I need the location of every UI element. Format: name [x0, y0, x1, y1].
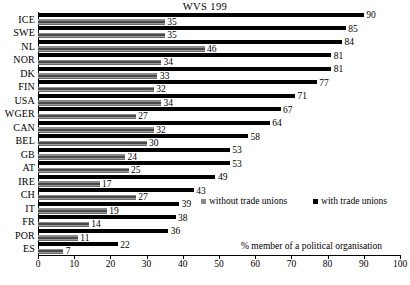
bar-without-trade-unions-bel: [38, 141, 147, 146]
value-label-with-trade-unions-es: 22: [118, 241, 130, 251]
value-label-with-trade-unions-usa: 71: [295, 92, 307, 102]
bar-with-trade-unions-ch: [38, 188, 194, 192]
x-axis-tick-label-20: 20: [106, 259, 116, 269]
bar-with-trade-unions-fr: [38, 215, 176, 219]
bar-without-trade-unions-ice: [38, 19, 165, 24]
chart-row: USA7134: [38, 93, 400, 107]
value-label-with-trade-unions-nl: 84: [342, 38, 354, 48]
legend-item-without-trade-unions: without trade unions: [201, 196, 287, 206]
chart-row: NL8446: [38, 39, 400, 53]
bar-without-trade-unions-can: [38, 127, 154, 132]
legend-swatch-without-trade-unions: [201, 199, 206, 204]
value-label-with-trade-unions-gb: 53: [230, 146, 242, 156]
x-axis-tick-label-40: 40: [178, 259, 188, 269]
category-label-fr: FR: [22, 216, 35, 227]
bar-without-trade-unions-fin: [38, 87, 154, 92]
category-label-can: CAN: [13, 121, 35, 132]
x-axis-tick-label-90: 90: [359, 259, 369, 269]
x-axis-title: % member of a political organisation: [241, 241, 382, 251]
category-label-ire: IRE: [18, 175, 35, 186]
category-label-bel: BEL: [16, 135, 36, 146]
bar-with-trade-unions-dk: [38, 67, 331, 71]
bar-without-trade-unions-wger: [38, 114, 136, 119]
category-label-at: AT: [22, 162, 35, 173]
category-label-it: IT: [25, 202, 35, 213]
bar-without-trade-unions-es: [38, 249, 63, 254]
chart-row: WGER6727: [38, 107, 400, 121]
value-label-with-trade-unions-bel: 58: [248, 133, 260, 143]
value-label-without-trade-unions-es: 7: [63, 247, 70, 257]
value-label-with-trade-unions-fr: 38: [176, 214, 188, 224]
x-axis-tick-label-10: 10: [69, 259, 79, 269]
bar-without-trade-unions-ch: [38, 195, 136, 200]
value-label-with-trade-unions-ire: 49: [215, 173, 227, 183]
chart-row: BEL5830: [38, 134, 400, 148]
plot-area: ICE9035SWE8535NL8446NOR8134DK8133FIN7732…: [38, 12, 400, 255]
bar-with-trade-unions-nor: [38, 53, 331, 57]
bar-without-trade-unions-at: [38, 168, 129, 173]
category-label-nl: NL: [21, 40, 35, 51]
chart-row: DK8133: [38, 66, 400, 80]
bar-without-trade-unions-por: [38, 235, 78, 240]
bar-with-trade-unions-fin: [38, 80, 317, 84]
category-label-nor: NOR: [13, 54, 35, 65]
bar-without-trade-unions-swe: [38, 33, 165, 38]
category-label-wger: WGER: [5, 108, 35, 119]
category-label-ice: ICE: [18, 13, 35, 24]
x-axis-tick-label-80: 80: [323, 259, 333, 269]
x-axis-tick-label-0: 0: [36, 259, 41, 269]
bar-with-trade-unions-nl: [38, 40, 342, 44]
value-label-with-trade-unions-fin: 77: [317, 79, 329, 89]
bar-with-trade-unions-bel: [38, 134, 248, 138]
category-label-swe: SWE: [13, 27, 35, 38]
bar-with-trade-unions-swe: [38, 26, 346, 30]
value-label-with-trade-unions-swe: 85: [346, 25, 358, 35]
value-label-with-trade-unions-it: 39: [179, 200, 191, 210]
category-label-es: ES: [23, 243, 35, 254]
value-label-with-trade-unions-nor: 81: [331, 52, 343, 62]
legend-label-with-trade-unions: with trade unions: [321, 196, 387, 206]
bar-without-trade-unions-ire: [38, 181, 100, 186]
category-label-fin: FIN: [18, 81, 35, 92]
x-axis-tick-label-100: 100: [393, 259, 407, 269]
bar-with-trade-unions-es: [38, 242, 118, 246]
bar-with-trade-unions-wger: [38, 107, 281, 111]
bar-without-trade-unions-usa: [38, 100, 161, 105]
value-label-with-trade-unions-at: 53: [230, 160, 242, 170]
bar-without-trade-unions-nor: [38, 60, 161, 65]
category-label-gb: GB: [21, 148, 35, 159]
value-label-with-trade-unions-por: 36: [168, 227, 180, 237]
bar-without-trade-unions-dk: [38, 73, 157, 78]
value-label-with-trade-unions-can: 64: [270, 119, 282, 129]
chart-row: GB5324: [38, 147, 400, 161]
chart-container: WVS 199 ICE9035SWE8535NL8446NOR8134DK813…: [0, 0, 410, 285]
category-label-por: POR: [15, 229, 35, 240]
legend-label-without-trade-unions: without trade unions: [209, 196, 287, 206]
chart-row: NOR8134: [38, 53, 400, 67]
chart-row: ICE9035: [38, 12, 400, 26]
bar-with-trade-unions-ice: [38, 13, 364, 17]
x-axis-tick-label-60: 60: [250, 259, 260, 269]
chart-row: POR3611: [38, 228, 400, 242]
bar-with-trade-unions-ire: [38, 175, 215, 179]
value-label-with-trade-unions-ice: 90: [364, 11, 376, 21]
category-label-ch: CH: [21, 189, 35, 200]
bar-without-trade-unions-gb: [38, 154, 125, 159]
x-axis-tick-label-70: 70: [287, 259, 297, 269]
chart-row: IRE4917: [38, 174, 400, 188]
chart-row: FR3814: [38, 215, 400, 229]
chart-row: CAN6432: [38, 120, 400, 134]
bar-with-trade-unions-por: [38, 229, 168, 233]
chart-title: WVS 199: [0, 1, 410, 12]
legend-item-with-trade-unions: with trade unions: [313, 196, 387, 206]
category-label-usa: USA: [14, 94, 35, 105]
value-label-with-trade-unions-dk: 81: [331, 65, 343, 75]
chart-legend: without trade unions with trade unions: [201, 196, 387, 206]
x-axis-tick-label-50: 50: [214, 259, 224, 269]
legend-swatch-with-trade-unions: [313, 199, 318, 204]
category-label-dk: DK: [20, 67, 35, 78]
bar-with-trade-unions-can: [38, 121, 270, 125]
bar-without-trade-unions-it: [38, 208, 107, 213]
value-label-with-trade-unions-wger: 67: [281, 106, 293, 116]
bar-without-trade-unions-nl: [38, 46, 205, 51]
